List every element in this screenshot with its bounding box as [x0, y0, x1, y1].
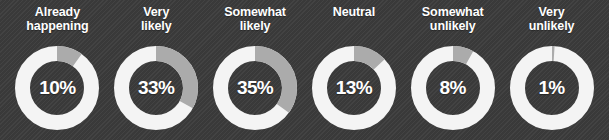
donut-cell-1: Already happening 10%: [8, 0, 107, 140]
donut-ring-svg: [14, 45, 100, 131]
donut-label: Very likely: [141, 6, 172, 36]
donut-ring-svg: [410, 45, 496, 131]
donut-cell-4: Neutral 13%: [304, 0, 403, 140]
donut-label: Somewhat unlikely: [422, 6, 484, 36]
donut-cell-3: Somewhat likely 35%: [206, 0, 305, 140]
donut-cell-2: Very likely 33%: [107, 0, 206, 140]
donut-chart: 8%: [410, 45, 496, 131]
donut-chart: 35%: [212, 45, 298, 131]
donut-cell-6: Very unlikely 1%: [502, 0, 601, 140]
donut-remainder-arc: [23, 54, 92, 123]
donut-chart: 33%: [113, 45, 199, 131]
donut-ring-svg: [311, 45, 397, 131]
donut-label: Somewhat likely: [224, 6, 286, 36]
donut-cell-5: Somewhat unlikely 8%: [403, 0, 502, 140]
donut-ring-svg: [212, 45, 298, 131]
donut-remainder-arc: [418, 54, 487, 123]
donut-label: Already happening: [26, 6, 88, 36]
donut-label: Neutral: [333, 6, 375, 36]
donut-label: Very unlikely: [529, 6, 575, 36]
donut-chart: 13%: [311, 45, 397, 131]
donut-ring-svg: [113, 45, 199, 131]
donut-row: Already happening 10% Very likely 33% So…: [0, 0, 609, 140]
donut-chart: 10%: [14, 45, 100, 131]
donut-chart: 1%: [509, 45, 595, 131]
donut-ring-svg: [509, 45, 595, 131]
likelihood-donut-infographic: Already happening 10% Very likely 33% So…: [0, 0, 609, 140]
donut-remainder-arc: [517, 54, 586, 123]
